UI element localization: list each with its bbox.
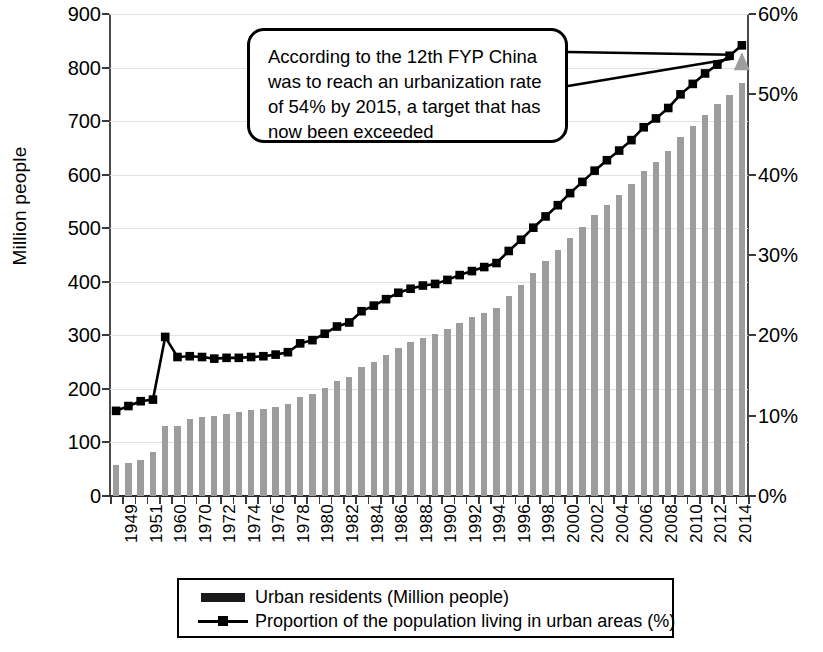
annotation-pointer-line bbox=[568, 59, 732, 86]
urbanization-chart: Million people 0100200300400500600700800… bbox=[0, 0, 823, 652]
annotation-callout: According to the 12th FYP China was to r… bbox=[247, 28, 568, 143]
annotation-pointer-line bbox=[568, 52, 732, 55]
annotation-text: According to the 12th FYP China was to r… bbox=[268, 44, 551, 144]
